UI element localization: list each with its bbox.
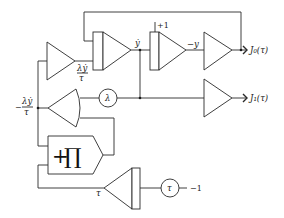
node-lambda-row (139, 97, 142, 100)
integrator-tau (104, 168, 140, 209)
label-lambda-coef: λ (104, 93, 110, 103)
inverter-1 (47, 42, 75, 80)
label-neg-lambda-ydot-num: λẏ (21, 96, 32, 106)
label-tau-output: τ (96, 188, 101, 198)
node-ydot (139, 49, 142, 52)
label-neg-sign: − (15, 103, 22, 112)
inverter-j1 (204, 79, 232, 117)
analog-computer-diagram: ẏ λẏ τ +1 −y J₀(τ) J₁(τ) λ − λẏ τ + ∏ τ … (0, 0, 284, 218)
label-multiplier-pi: ∏ (64, 144, 82, 169)
integrator-2 (150, 32, 186, 70)
node-divider-out (37, 107, 40, 110)
inverter-j0 (204, 32, 232, 70)
label-neg-lambda-ydot-den: τ (24, 107, 29, 117)
label-j0-output: J₀(τ) (248, 45, 268, 55)
integrator-1 (93, 32, 131, 70)
label-lambda-ydot-den: τ (79, 73, 84, 83)
label-lambda-ydot-num: λẏ (76, 63, 87, 73)
label-ydot: ẏ (134, 38, 140, 48)
wire-left-bus (38, 61, 48, 146)
divider (48, 89, 80, 127)
label-j1-output: J₁(τ) (248, 93, 268, 103)
label-neg-y: −y (187, 39, 199, 49)
label-plus-one: +1 (157, 21, 169, 30)
label-tau-coef: τ (167, 183, 172, 193)
label-neg-one: −1 (190, 184, 202, 193)
node-j0 (240, 49, 243, 52)
